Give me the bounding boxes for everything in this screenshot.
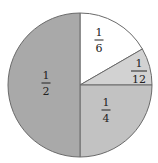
pie-slice-1-4 xyxy=(80,85,152,157)
fraction-bar xyxy=(95,40,104,41)
fraction-bar xyxy=(42,83,51,84)
numerator: 1 xyxy=(135,58,144,69)
fraction-bar xyxy=(102,110,111,111)
fraction-bar xyxy=(131,71,147,72)
slice-label-1-4: 14 xyxy=(102,97,111,124)
denominator: 12 xyxy=(131,74,147,85)
denominator: 4 xyxy=(102,113,111,124)
slice-label-1-6: 16 xyxy=(95,27,104,54)
slice-label-1-2: 12 xyxy=(42,70,51,97)
numerator: 1 xyxy=(42,70,51,81)
slice-label-1-12: 112 xyxy=(131,58,147,85)
numerator: 1 xyxy=(102,97,111,108)
denominator: 6 xyxy=(95,43,104,54)
numerator: 1 xyxy=(95,27,104,38)
denominator: 2 xyxy=(42,86,51,97)
